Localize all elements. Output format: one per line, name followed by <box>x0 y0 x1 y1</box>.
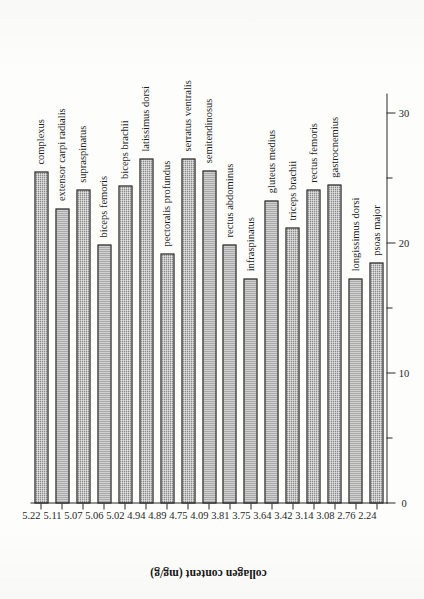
bar-row <box>97 93 111 503</box>
category-tick <box>292 503 293 509</box>
bar-annotation-label: gluteus medius <box>265 129 276 192</box>
category-tick <box>250 503 251 509</box>
category-tick <box>124 503 125 509</box>
category-tick <box>103 503 104 509</box>
bar-annotation-label: gastrocnemius <box>328 116 339 177</box>
category-tick <box>313 503 314 509</box>
bar-series: complexusextensor carpi radialissupraspi… <box>30 93 386 503</box>
bar-row <box>139 93 153 503</box>
bar-annotation-label: pectoralis profundus <box>161 160 172 246</box>
category-tick <box>229 503 230 509</box>
category-tick-label: 3.08 <box>315 510 333 521</box>
bar-row <box>369 93 383 503</box>
value-tick-label: 0 <box>401 498 406 509</box>
bar-annotation-label: psoas major <box>370 205 381 255</box>
category-tick <box>166 503 167 509</box>
bar-annotation-label: rectus abdominus <box>223 163 234 237</box>
value-axis-line <box>386 93 387 503</box>
category-tick-label: 4.09 <box>190 510 208 521</box>
bar-annotation-label: serratus ventralis <box>182 80 193 151</box>
bar <box>160 253 174 503</box>
bar <box>34 171 48 503</box>
bar <box>76 189 90 503</box>
bar-annotation-label: biceps femoris <box>98 175 109 237</box>
category-tick <box>376 503 377 509</box>
category-tick <box>82 503 83 509</box>
category-tick-label: 3.75 <box>232 510 250 521</box>
category-tick <box>355 503 356 509</box>
bar <box>327 184 341 503</box>
value-tick-major <box>386 372 395 373</box>
value-tick-minor <box>386 177 392 178</box>
bar <box>55 208 69 503</box>
bar <box>264 200 278 503</box>
bar <box>306 189 320 503</box>
category-tick-label: 5.02 <box>106 510 124 521</box>
bar-row <box>348 93 362 503</box>
category-tick-label: 2.76 <box>336 510 354 521</box>
category-tick-label: 4.75 <box>169 510 187 521</box>
figure-panel: complexusextensor carpi radialissupraspi… <box>0 0 424 599</box>
bar-annotation-label: semitendinosus <box>203 98 214 163</box>
bar-annotation-label: rectus femoris <box>307 123 318 183</box>
bar-annotation-label: supraspinatus <box>77 125 88 182</box>
category-tick-label: 5.06 <box>85 510 103 521</box>
bar <box>181 158 195 503</box>
bar <box>285 227 299 503</box>
bar <box>222 244 236 503</box>
bar <box>202 170 216 503</box>
value-tick-label: 30 <box>398 107 409 118</box>
value-tick-label: 20 <box>398 237 409 248</box>
bar-annotation-label: longissimus dorsi <box>349 197 360 271</box>
category-tick-label: 3.14 <box>294 510 312 521</box>
category-axis-title: collagen content (mg/g) <box>150 567 267 579</box>
category-tick <box>145 503 146 509</box>
value-tick-label: 10 <box>398 367 409 378</box>
category-tick-label: 5.11 <box>43 510 61 521</box>
value-tick-minor <box>386 437 392 438</box>
bar <box>348 278 362 503</box>
bar-row <box>222 93 236 503</box>
bar-row <box>285 93 299 503</box>
bar-row <box>160 93 174 503</box>
category-tick <box>187 503 188 509</box>
bar <box>369 262 383 503</box>
category-tick-label: 4.94 <box>127 510 145 521</box>
bar-annotation-label: latissimus dorsi <box>140 85 151 151</box>
bar-annotation-label: complexus <box>35 119 46 165</box>
bar-row <box>181 93 195 503</box>
category-tick-label: 4.89 <box>148 510 166 521</box>
value-tick-major <box>386 112 395 113</box>
value-tick-major <box>386 242 395 243</box>
category-tick-label: 2.24 <box>357 510 375 521</box>
bar-annotation-label: biceps brachii <box>119 120 130 179</box>
bar <box>243 278 257 503</box>
bar <box>139 158 153 503</box>
bar-annotation-label: triceps brachii <box>286 160 297 220</box>
category-tick-label: 5.22 <box>22 510 40 521</box>
plot-area: complexusextensor carpi radialissupraspi… <box>30 93 386 503</box>
bar-annotation-label: extensor carpi radialis <box>56 108 67 201</box>
category-tick <box>208 503 209 509</box>
rotated-chart-stage: complexusextensor carpi radialissupraspi… <box>0 0 424 599</box>
category-tick <box>40 503 41 509</box>
category-tick-label: 5.07 <box>64 510 82 521</box>
category-tick <box>334 503 335 509</box>
category-tick-label: 3.64 <box>252 510 270 521</box>
category-tick <box>61 503 62 509</box>
bar-annotation-label: infraspinatus <box>244 217 255 271</box>
category-tick-label: 3.42 <box>273 510 291 521</box>
bar <box>118 185 132 503</box>
value-tick-major <box>386 502 395 503</box>
bar-row <box>243 93 257 503</box>
value-tick-minor <box>386 307 392 308</box>
category-tick-label: 3.81 <box>211 510 229 521</box>
bar <box>97 244 111 503</box>
category-tick <box>271 503 272 509</box>
